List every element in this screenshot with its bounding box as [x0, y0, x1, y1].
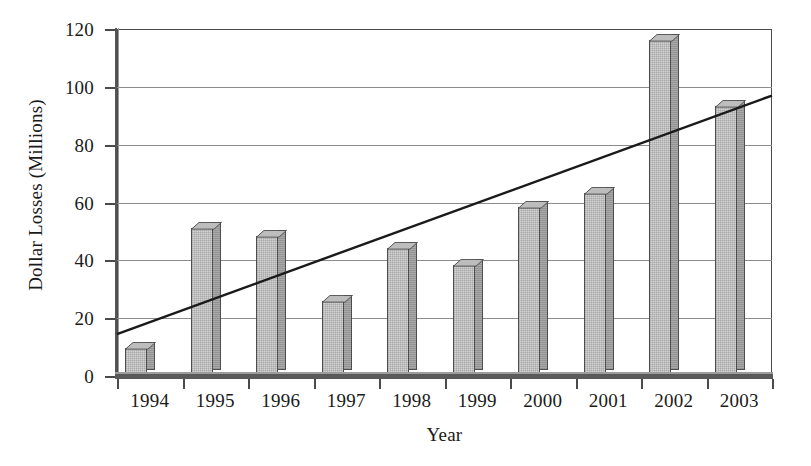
- x-tick-1998: [379, 379, 381, 389]
- y-tick-label-0: 0: [0, 367, 94, 386]
- x-tick-label-1998: 1998: [379, 390, 445, 412]
- x-tick-label-2002: 2002: [641, 390, 707, 412]
- x-tick-label-2001: 2001: [575, 390, 641, 412]
- y-tick-label-100: 100: [0, 78, 94, 97]
- x-tick-1999: [445, 379, 447, 389]
- trend-line-segment: [117, 96, 772, 335]
- chart-figure: Dollar Losses (Millions) 020406080100120…: [0, 0, 811, 466]
- y-tick-label-40: 40: [0, 251, 94, 270]
- x-tick-label-1995: 1995: [182, 390, 248, 412]
- y-tick-label-60: 60: [0, 194, 94, 213]
- x-tick-label-2000: 2000: [510, 390, 576, 412]
- x-tick-2001: [576, 379, 578, 389]
- x-tick-1996: [248, 379, 250, 389]
- x-tick-2002: [641, 379, 643, 389]
- y-tick-label-20: 20: [0, 309, 94, 328]
- x-tick-2003: [707, 379, 709, 389]
- x-tick-end: [772, 379, 774, 389]
- x-tick-1995: [183, 379, 185, 389]
- y-tick-label-120: 120: [0, 20, 94, 39]
- x-tick-1994: [117, 379, 119, 389]
- x-tick-label-2003: 2003: [706, 390, 772, 412]
- x-axis-title: Year: [117, 424, 772, 446]
- trend-line: [117, 29, 772, 376]
- x-tick-label-1994: 1994: [117, 390, 183, 412]
- x-tick-label-1996: 1996: [248, 390, 314, 412]
- x-tick-1997: [314, 379, 316, 389]
- x-tick-2000: [510, 379, 512, 389]
- x-tick-label-1997: 1997: [313, 390, 379, 412]
- x-tick-label-1999: 1999: [444, 390, 510, 412]
- y-tick-label-80: 80: [0, 136, 94, 155]
